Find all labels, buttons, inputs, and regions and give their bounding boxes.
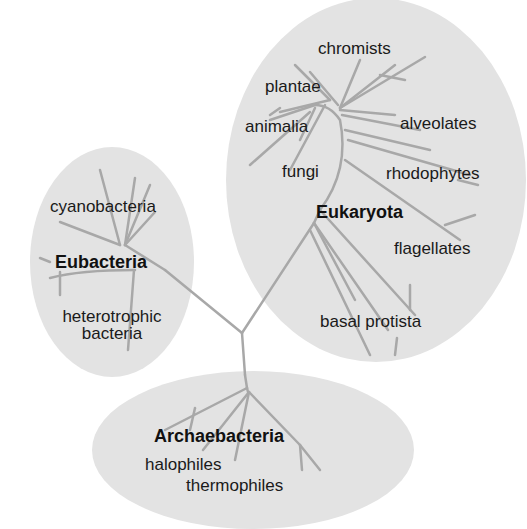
label-heterotrophic-bacteria: heterotrophic bacteria (52, 308, 172, 342)
label-flagellates: flagellates (394, 240, 471, 257)
label-fungi: fungi (282, 163, 319, 180)
label-plantae: plantae (265, 78, 321, 95)
label-chromists: chromists (318, 40, 391, 57)
label-basal-protista: basal protista (320, 313, 421, 330)
label-heterotrophic-line2: bacteria (82, 324, 142, 343)
domain-label-eukaryota: Eukaryota (316, 203, 403, 221)
label-halophiles: halophiles (145, 456, 222, 473)
label-rhodophytes: rhodophytes (386, 165, 480, 182)
label-alveolates: alveolates (400, 115, 477, 132)
label-thermophiles: thermophiles (186, 477, 283, 494)
label-cyanobacteria: cyanobacteria (50, 198, 156, 215)
label-animalia: animalia (245, 118, 308, 135)
domain-label-archaebacteria: Archaebacteria (154, 427, 284, 445)
domain-label-eubacteria: Eubacteria (55, 253, 147, 271)
